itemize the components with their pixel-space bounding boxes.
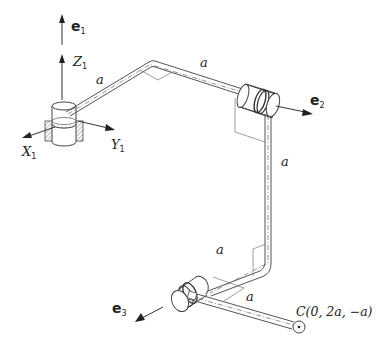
manipulator-diagram: e1 Z1 X1 Y1	[0, 0, 388, 353]
e1-axis-arrow	[59, 14, 65, 45]
link-1a-label: a	[96, 72, 104, 87]
y1-label: Y1	[111, 137, 125, 154]
link-1	[66, 61, 252, 116]
x1-label: X1	[21, 144, 36, 161]
link-3b-label: a	[246, 289, 254, 304]
link-3a-label: a	[216, 242, 224, 257]
e2-axis-arrow	[276, 106, 313, 116]
link-2	[208, 98, 271, 296]
y1-axis-arrow	[78, 121, 115, 131]
e2-label: e2	[310, 92, 325, 110]
e1-label: e1	[71, 18, 86, 36]
z1-label: Z1	[72, 54, 87, 71]
e3-axis-arrow	[135, 307, 163, 322]
z1-axis-arrow	[59, 54, 65, 100]
link-2-label: a	[281, 154, 289, 169]
end-point-label: C(0, 2a, −a)	[296, 304, 373, 319]
joint-2	[235, 83, 283, 118]
e3-label: e3	[112, 300, 127, 318]
end-point-c	[293, 321, 305, 333]
link-1b-label: a	[200, 55, 208, 70]
